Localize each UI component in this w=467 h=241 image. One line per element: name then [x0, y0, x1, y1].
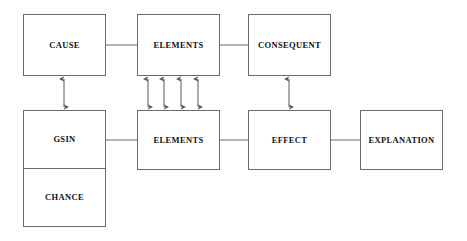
node-gsin-chance: GSIN CHANCE [23, 110, 106, 227]
node-effect-label: EFFECT [272, 136, 308, 145]
node-explanation: EXPLANATION [360, 110, 443, 170]
node-elements-top: ELEMENTS [137, 14, 220, 76]
node-consequent: CONSEQUENT [248, 14, 331, 76]
node-explanation-label: EXPLANATION [368, 136, 434, 145]
node-elements-top-label: ELEMENTS [153, 41, 203, 50]
node-elements-bottom-label: ELEMENTS [153, 136, 203, 145]
node-chance: CHANCE [24, 169, 105, 226]
node-gsin-label: GSIN [53, 135, 75, 144]
connector-arrows-group [64, 79, 289, 107]
diagram-canvas: CAUSE ELEMENTS CONSEQUENT GSIN CHANCE EL… [0, 0, 467, 241]
node-cause-label: CAUSE [49, 41, 80, 50]
node-effect: EFFECT [248, 110, 331, 170]
node-chance-label: CHANCE [45, 193, 84, 202]
node-gsin: GSIN [24, 111, 105, 169]
node-cause: CAUSE [23, 14, 106, 76]
node-consequent-label: CONSEQUENT [258, 41, 321, 50]
node-elements-bottom: ELEMENTS [137, 110, 220, 170]
